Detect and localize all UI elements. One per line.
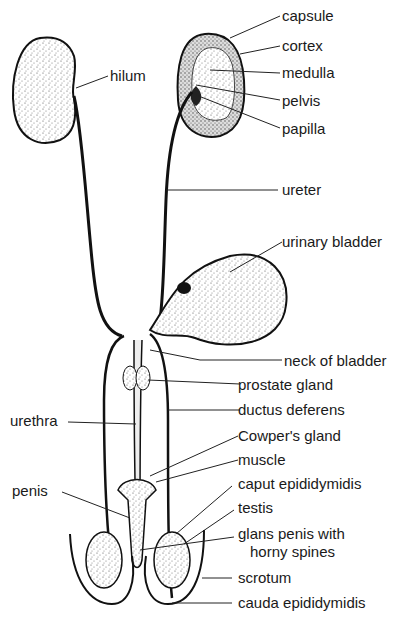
label-ureter: ureter xyxy=(282,182,321,198)
label-pelvis: pelvis xyxy=(282,93,320,109)
label-urinary-bladder: urinary bladder xyxy=(282,234,382,250)
right-kidney xyxy=(178,34,245,137)
left-ureter xyxy=(74,96,122,336)
label-hilum: hilum xyxy=(110,68,146,84)
label-medulla: medulla xyxy=(282,65,335,81)
label-testis: testis xyxy=(238,500,273,516)
label-papilla: papilla xyxy=(282,121,325,137)
left-kidney xyxy=(13,38,75,143)
label-urethra: urethra xyxy=(10,413,58,429)
label-glans-penis-line1: glans penis with xyxy=(238,526,345,542)
label-glans-penis-line2: horny spines xyxy=(250,544,335,560)
label-capsule: capsule xyxy=(282,8,334,24)
left-testis xyxy=(86,532,122,588)
label-neck-of-bladder: neck of bladder xyxy=(284,353,387,369)
urinary-bladder xyxy=(150,255,287,345)
label-penis: penis xyxy=(12,483,48,499)
label-prostate-gland: prostate gland xyxy=(238,377,333,393)
label-cortex: cortex xyxy=(282,38,323,54)
label-caput-epididymidis: caput epididymidis xyxy=(238,476,361,492)
label-ductus-deferens: ductus deferens xyxy=(238,402,345,418)
prostate-gland xyxy=(123,366,137,390)
label-cauda-epididymidis: cauda epididymidis xyxy=(238,595,366,611)
right-testis xyxy=(154,532,190,588)
label-scrotum: scrotum xyxy=(238,570,291,586)
label-cowpers-gland: Cowper's gland xyxy=(238,428,341,444)
penis xyxy=(118,480,156,568)
label-muscle: muscle xyxy=(238,452,286,468)
anatomy-diagram xyxy=(0,0,408,622)
